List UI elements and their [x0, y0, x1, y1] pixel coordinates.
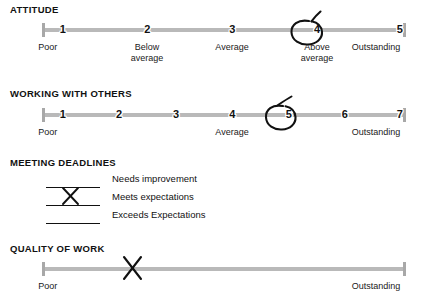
scale-label-outstanding: Outstanding: [352, 281, 401, 292]
scale-label-average: Average: [215, 42, 248, 53]
section-heading-quality-of-work: QUALITY OF WORK: [10, 243, 105, 254]
handwritten-x-mark-meets-expectations: [60, 186, 82, 206]
attitude-scale[interactable]: 1 2 3 4 5: [42, 23, 406, 37]
scale-point-6[interactable]: 6: [342, 105, 348, 123]
scale-point-5[interactable]: 5: [397, 20, 403, 38]
scale-point-3[interactable]: 3: [229, 20, 235, 38]
scale-point-1[interactable]: 1: [60, 20, 66, 38]
scale-point-5[interactable]: 5: [286, 105, 292, 123]
scale-end-cap-right: [403, 262, 406, 276]
scale-label-average: Average: [215, 127, 248, 138]
scale-point-2[interactable]: 2: [116, 105, 122, 123]
section-heading-attitude: ATTITUDE: [10, 4, 59, 15]
scale-label-above-average: Above average: [301, 42, 334, 64]
scale-track: [42, 113, 406, 117]
checklist-option-meets-expectations[interactable]: Meets expectations: [46, 190, 346, 208]
checklist-option-label: Exceeds Expectations: [112, 209, 205, 220]
checklist-option-label: Meets expectations: [112, 191, 194, 202]
scale-point-2[interactable]: 2: [144, 20, 150, 38]
scale-label-poor: Poor: [38, 42, 57, 53]
scale-point-4[interactable]: 4: [314, 20, 320, 38]
scale-label-outstanding: Outstanding: [352, 42, 401, 53]
scale-end-cap-left: [42, 23, 45, 37]
scale-point-1[interactable]: 1: [60, 105, 66, 123]
scale-track: [42, 28, 406, 32]
scale-label-below-average: Below average: [131, 42, 164, 64]
scale-label-outstanding: Outstanding: [352, 127, 401, 138]
scale-end-cap-right: [403, 23, 406, 37]
checklist-option-label: Needs improvement: [112, 173, 197, 184]
scale-end-cap-left: [42, 262, 45, 276]
scale-end-cap-left: [42, 108, 45, 122]
rating-form-page: ATTITUDE 1 2 3 4 5 Poor Below average Av…: [0, 0, 426, 298]
scale-point-3[interactable]: 3: [173, 105, 179, 123]
checkbox-blank-line[interactable]: [46, 223, 100, 224]
scale-label-poor: Poor: [38, 281, 57, 292]
scale-label-poor: Poor: [38, 127, 57, 138]
section-heading-working-with-others: WORKING WITH OTHERS: [10, 88, 132, 99]
checklist-option-exceeds-expectations[interactable]: Exceeds Expectations: [46, 208, 346, 226]
scale-end-cap-right: [403, 108, 406, 122]
scale-point-7[interactable]: 7: [397, 105, 403, 123]
scale-track: [42, 267, 406, 271]
working-with-others-scale[interactable]: 1 2 3 4 5 6 7: [42, 108, 406, 122]
scale-point-4[interactable]: 4: [229, 105, 235, 123]
checklist-option-needs-improvement[interactable]: Needs improvement: [46, 172, 346, 190]
quality-of-work-scale[interactable]: [42, 262, 406, 276]
section-heading-meeting-deadlines: MEETING DEADLINES: [10, 157, 116, 168]
